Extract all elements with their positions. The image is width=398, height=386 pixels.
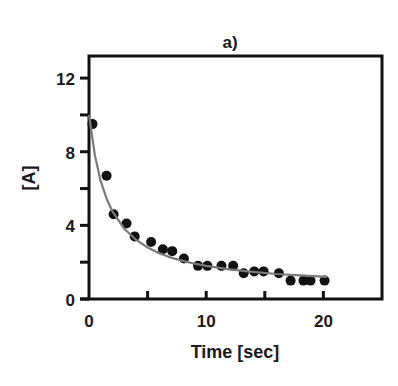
x-tick-label: 10 <box>197 312 216 331</box>
data-point <box>259 266 269 276</box>
data-point <box>102 171 112 181</box>
y-tick-label: 12 <box>56 70 75 89</box>
chart-title: a) <box>222 33 237 52</box>
fit-line <box>89 115 327 277</box>
data-point <box>286 276 296 286</box>
data-point <box>167 246 177 256</box>
x-tick-label: 20 <box>314 312 333 331</box>
y-tick-label: 4 <box>66 217 76 236</box>
x-tick-label: 0 <box>84 312 93 331</box>
data-points <box>88 119 330 285</box>
fit-curve <box>89 115 327 277</box>
decay-chart: a) 01020 04812 Time [sec] [A] <box>0 0 398 386</box>
y-axis-label: [A] <box>19 166 39 191</box>
x-axis-label: Time [sec] <box>191 342 280 362</box>
y-axis-ticks: 04812 <box>56 70 89 310</box>
x-axis-ticks: 01020 <box>80 291 333 331</box>
y-tick-label: 8 <box>66 144 75 163</box>
data-point <box>146 237 156 247</box>
y-tick-label: 0 <box>66 291 75 310</box>
